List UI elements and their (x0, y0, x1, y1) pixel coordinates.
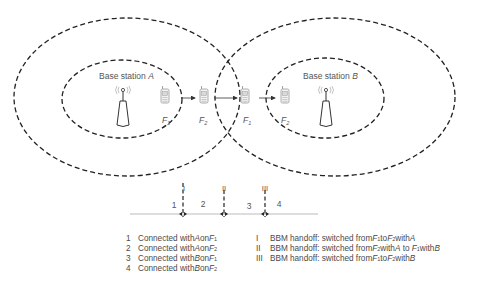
legend-item: 4Connected with B on F2 (126, 264, 217, 274)
legend-item: IIBBM handoff: switched from F2 with A t… (256, 244, 440, 254)
segment-label-2: 2 (201, 199, 206, 209)
legend-segments: 1Connected with A on F1 2Connected with … (126, 234, 217, 274)
mobile-terminal-2-icon (200, 86, 208, 103)
segment-label-4: 4 (277, 199, 282, 209)
legend-item: 3Connected with B on F1 (126, 254, 217, 264)
base-station-a-icon (116, 86, 131, 127)
base-station-b-label: Base station B (303, 71, 358, 81)
terminal-2-freq: F2 (199, 115, 207, 126)
base-station-b-icon (319, 86, 334, 127)
marker-label-i: I (183, 184, 185, 193)
marker-label-ii: II (222, 184, 226, 193)
mobile-terminal-4-icon (281, 86, 289, 103)
segment-label-1: 1 (172, 200, 177, 210)
legend-item: IBBM handoff: switched from F1 to F2 wit… (256, 234, 440, 244)
terminal-4-freq: F2 (281, 115, 289, 126)
terminal-3-freq: F1 (243, 115, 251, 126)
coverage-outer-b (215, 18, 455, 176)
legend-handoffs: IBBM handoff: switched from F1 to F2 wit… (256, 234, 440, 264)
base-station-a-label: Base station A (99, 71, 154, 81)
mobile-terminal-3-icon (241, 86, 249, 103)
legend-item: 1Connected with A on F1 (126, 234, 217, 244)
legend-item: 2Connected with A on F2 (126, 244, 217, 254)
mobile-terminal-1-icon (161, 86, 169, 103)
marker-label-iii: III (262, 184, 268, 193)
terminal-1-freq: F2 (162, 115, 170, 126)
legend-item: IIIBBM handoff: switched from F1 to F2 w… (256, 254, 440, 264)
segment-label-3: 3 (247, 201, 252, 211)
